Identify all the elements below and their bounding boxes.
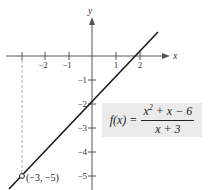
y-tick-label: −4 [77,147,87,157]
x-tick-label: −1 [62,60,72,70]
y-tick-labels: −1 −2 −3 −4 −5 [77,75,87,181]
y-axis-label: y [87,5,93,16]
point-label: (−3, −5) [26,172,59,184]
formula-lhs: f(x) = [110,113,138,128]
x-tick-label: 2 [138,60,143,70]
y-tick-label: −3 [77,123,87,133]
x-axis-arrow-icon [162,53,170,59]
formula-denominator: x + 3 [155,121,180,137]
graph: x y −2 −1 1 2 −1 −2 −3 −4 −5 (−3, −5) [0,0,212,190]
numerator-rest: + x − 6 [153,104,193,118]
x-tick-label: 1 [114,60,119,70]
x-axis-label: x [172,50,178,61]
open-circle-hole [20,174,25,179]
formula-box: f(x) = x2 + x − 6 x + 3 [102,103,202,137]
x-tick-label: −2 [38,60,48,70]
formula-numerator: x2 + x − 6 [141,103,194,121]
y-axis-arrow-icon [89,17,95,25]
y-tick-label: −1 [77,75,87,85]
formula-fraction: x2 + x − 6 x + 3 [141,103,194,137]
y-tick-label: −5 [77,171,87,181]
